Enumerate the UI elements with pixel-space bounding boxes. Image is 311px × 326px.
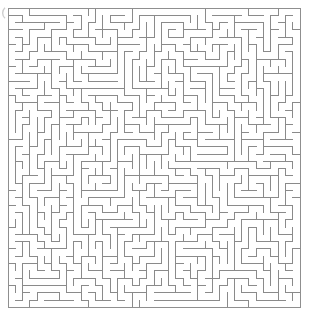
maze-wall-group [8,8,300,307]
maze-walls-path [8,8,300,307]
maze-container [0,0,311,326]
maze-figure [0,0,311,326]
maze-artifact-arc [3,8,5,19]
